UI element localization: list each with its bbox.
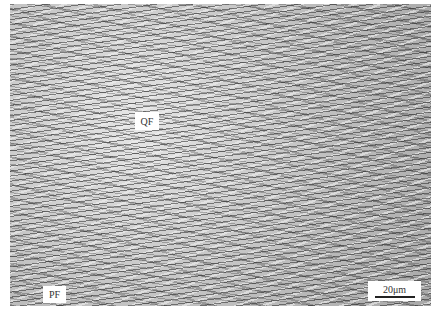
micrograph [10, 4, 431, 306]
scale-bar-line [375, 296, 415, 298]
label-pf-text: PF [49, 289, 60, 300]
label-qf: QF [135, 112, 159, 130]
scale-bar-text: 20μm [383, 284, 406, 295]
label-qf-text: QF [141, 116, 154, 127]
label-pf: PF [43, 286, 66, 303]
scale-bar: 20μm [368, 281, 421, 301]
